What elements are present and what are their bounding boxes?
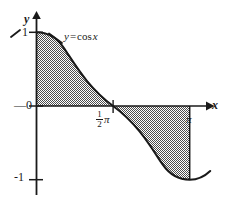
pi-symbol: π xyxy=(104,114,110,125)
y-axis-label: y xyxy=(24,13,29,25)
y-tick-label-0: —0 xyxy=(14,99,32,111)
plot-canvas xyxy=(0,0,227,204)
x-tick-label-half-pi: 1 2 π xyxy=(96,110,110,129)
cosine-curve-figure: y x 1 —0 -1 1 2 π π y=cos x xyxy=(0,0,227,204)
fraction-denominator: 2 xyxy=(96,120,103,129)
half-fraction: 1 2 xyxy=(96,110,103,129)
x-tick-label-pi: π xyxy=(186,114,192,125)
shaded-area-negative xyxy=(113,106,190,180)
fraction-numerator: 1 xyxy=(96,110,103,119)
y-tick-label-0-value: 0 xyxy=(26,98,32,112)
shaded-area-positive xyxy=(37,32,114,106)
ytick-1-leader-dash xyxy=(11,30,20,37)
equation-variable: x xyxy=(93,30,98,42)
y-tick-label-negative-1: -1 xyxy=(14,171,24,183)
x-axis-label: x xyxy=(212,99,218,111)
y-tick-label-1: 1 xyxy=(22,26,28,38)
equation-operator: = xyxy=(69,30,77,42)
equation-function: cos xyxy=(77,30,92,42)
curve-equation-label: y=cos x xyxy=(64,31,98,42)
